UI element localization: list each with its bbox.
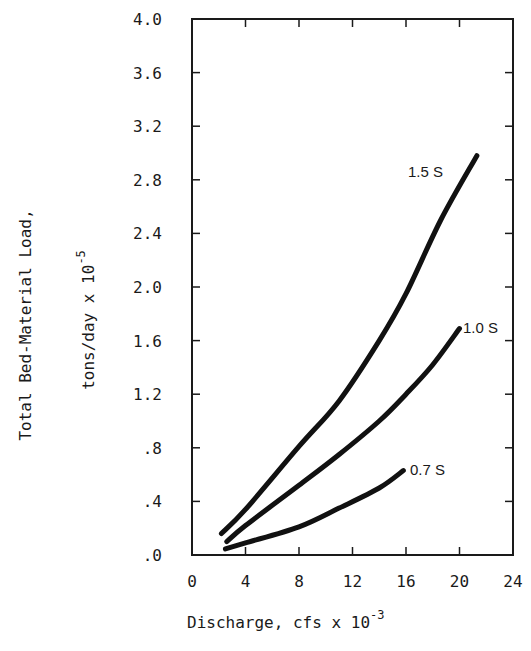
series-label: 1.0 S: [463, 319, 498, 336]
x-tick-label: 8: [294, 572, 304, 591]
y-tick-label: .8: [143, 439, 162, 458]
y-tick-label: 2.8: [133, 171, 162, 190]
y-tick-label: .4: [143, 492, 162, 511]
series-labels: 1.5 S1.0 S0.7 S: [408, 163, 498, 478]
x-tick-label: 0: [187, 572, 197, 591]
y-tick-label: 1.2: [133, 385, 162, 404]
x-axis-label: Discharge, cfs x 10-3: [187, 608, 384, 632]
series-curve-07S: [225, 471, 403, 549]
y-tick-label: 3.6: [133, 64, 162, 83]
series-label: 1.5 S: [408, 163, 443, 180]
y-axis-label-line1: Total Bed-Material Load,: [16, 209, 35, 440]
x-tick-label: 4: [241, 572, 251, 591]
x-tick-labels: 04812162024: [187, 572, 522, 591]
y-axis-label-line2: tons/day x 10-5: [74, 250, 98, 390]
y-tick-label: 4.0: [133, 10, 162, 29]
chart: .0.4.81.21.62.02.42.83.23.64.0 048121620…: [0, 0, 531, 651]
y-tick-label: 2.4: [133, 224, 162, 243]
y-tick-labels: .0.4.81.21.62.02.42.83.23.64.0: [133, 10, 162, 565]
axis-ticks: [192, 19, 513, 555]
x-tick-label: 24: [503, 572, 522, 591]
x-tick-label: 12: [343, 572, 362, 591]
x-tick-label: 20: [450, 572, 469, 591]
y-tick-label: .0: [143, 546, 162, 565]
y-tick-label: 1.6: [133, 332, 162, 351]
x-tick-label: 16: [396, 572, 415, 591]
series-curves: [221, 156, 476, 549]
series-label: 0.7 S: [410, 461, 445, 478]
y-tick-label: 2.0: [133, 278, 162, 297]
series-curve-10S: [227, 329, 460, 542]
y-tick-label: 3.2: [133, 117, 162, 136]
plot-frame: [192, 19, 513, 555]
